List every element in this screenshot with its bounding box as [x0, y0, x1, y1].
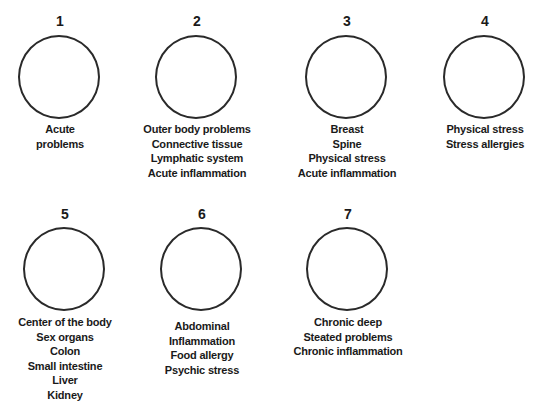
- circle-shape: [443, 35, 525, 119]
- node-label: Steated problems: [248, 330, 448, 345]
- node-labels: Physical stress Stress allergies: [385, 122, 547, 151]
- node-label: Chronic deep: [248, 315, 448, 330]
- node-label: Physical stress: [385, 122, 547, 137]
- circle-shape: [160, 227, 242, 311]
- circle-shape: [306, 227, 388, 311]
- circle-shape: [23, 227, 105, 311]
- circle-shape: [18, 35, 100, 119]
- node-number: 7: [328, 207, 368, 221]
- node-number: 3: [327, 14, 367, 28]
- circle-shape: [305, 35, 387, 119]
- node-label: Physical stress: [247, 151, 447, 166]
- node-label: Psychic stress: [102, 363, 302, 378]
- node-number: 1: [40, 14, 80, 28]
- node-label: Chronic inflammation: [248, 344, 448, 359]
- node-label: Acute inflammation: [247, 166, 447, 181]
- node-labels: Chronic deep Steated problems Chronic in…: [248, 315, 448, 359]
- circle-shape: [155, 35, 237, 119]
- node-number: 2: [177, 14, 217, 28]
- node-label: Stress allergies: [385, 137, 547, 152]
- node-number: 6: [182, 207, 222, 221]
- node-label: Kidney: [0, 388, 165, 402]
- node-number: 5: [45, 207, 85, 221]
- node-number: 4: [465, 14, 505, 28]
